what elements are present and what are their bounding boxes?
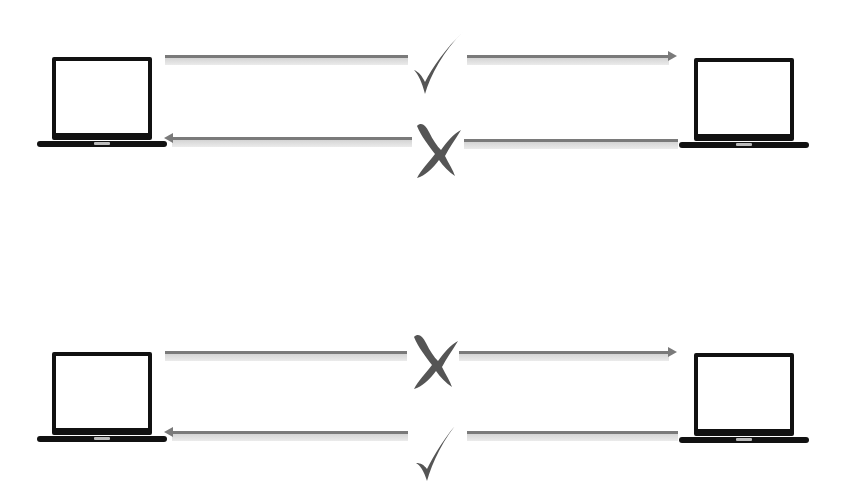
cross-icon — [411, 118, 463, 180]
check-icon — [412, 415, 464, 485]
laptop-screen — [694, 58, 794, 141]
arrowhead-left-icon — [164, 427, 173, 437]
laptop-notch — [94, 437, 110, 440]
laptop-icon — [679, 353, 809, 448]
laptop-notch — [94, 142, 110, 145]
arrow-left-segment-right — [464, 139, 678, 151]
arrow-right-segment-left — [165, 351, 407, 363]
cross-icon — [408, 329, 460, 391]
laptop-notch — [736, 143, 752, 146]
scenario-top — [0, 0, 848, 140]
arrow-right-segment-left — [165, 55, 408, 67]
arrow-left-segment-right — [467, 431, 678, 443]
laptop-screen — [52, 352, 152, 435]
arrow-left-segment-left — [172, 137, 412, 149]
check-icon — [408, 30, 466, 98]
laptop-screen — [694, 353, 794, 436]
arrowhead-left-icon — [164, 133, 173, 143]
arrow-left-segment-left — [172, 431, 408, 443]
laptop-notch — [736, 438, 752, 441]
arrow-right-segment-right — [459, 351, 669, 363]
laptop-icon — [37, 57, 167, 152]
scenario-bottom — [0, 295, 848, 435]
arrowhead-right-icon — [668, 51, 677, 61]
laptop-screen — [52, 57, 152, 140]
laptop-icon — [37, 352, 167, 447]
arrowhead-right-icon — [668, 347, 677, 357]
laptop-icon — [679, 58, 809, 153]
arrow-right-segment-right — [467, 55, 669, 67]
